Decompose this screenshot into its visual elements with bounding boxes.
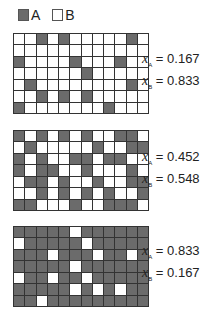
lattice-cell-a	[127, 131, 137, 141]
lattice-cell-b	[25, 91, 35, 101]
lattice-cell-a	[70, 200, 80, 210]
lattice-cell-b	[14, 273, 24, 283]
lattice-cell-a	[59, 131, 69, 141]
lattice-cell-a	[59, 261, 69, 271]
lattice-cell-b	[37, 296, 47, 306]
lattice-cell-a	[82, 261, 92, 271]
lattice-grid	[13, 33, 149, 114]
lattice-cell-b	[70, 34, 80, 44]
lattice-cell-a	[25, 250, 35, 260]
lattice-cell-b	[48, 68, 58, 78]
lattice-cell-a	[37, 227, 47, 237]
lattice-cell-b	[93, 45, 103, 55]
lattice-cell-b	[104, 177, 114, 187]
lattice-cell-a	[70, 273, 80, 283]
lattice-cell-b	[115, 91, 125, 101]
lattice-cell-a	[37, 284, 47, 294]
lattice-cell-b	[93, 57, 103, 67]
lattice-cell-b	[127, 68, 137, 78]
lattice-cell-a	[25, 142, 35, 152]
lattice-cell-a	[37, 91, 47, 101]
lattice-cell-b	[93, 34, 103, 44]
lattice-cell-a	[14, 284, 24, 294]
lattice-cell-b	[59, 80, 69, 90]
legend-item-a: A	[18, 7, 40, 23]
lattice-cell-a	[25, 238, 35, 248]
lattice-cell-a	[93, 177, 103, 187]
lattice-cell-b	[115, 103, 125, 113]
lattice-cell-a	[82, 154, 92, 164]
lattice-cell-a	[14, 250, 24, 260]
lattice-cell-b	[48, 91, 58, 101]
lattice-cell-a	[25, 296, 35, 306]
lattice-cell-a	[14, 103, 24, 113]
lattice-cell-a	[104, 227, 114, 237]
lattice-cell-a	[115, 261, 125, 271]
lattice-cell-b	[127, 250, 137, 260]
lattice-cell-a	[37, 131, 47, 141]
lattice-cell-b	[25, 131, 35, 141]
lattice-cell-a	[59, 238, 69, 248]
lattice-cell-a	[127, 227, 137, 237]
lattice-cell-b	[104, 80, 114, 90]
lattice-cell-b	[70, 80, 80, 90]
lattice-cell-b	[25, 68, 35, 78]
lattice-cell-b	[48, 34, 58, 44]
lattice-cell-a	[14, 131, 24, 141]
legend-label-a: A	[31, 7, 40, 23]
lattice-cell-a	[104, 154, 114, 164]
lattice-cell-a	[25, 177, 35, 187]
lattice-cell-b	[93, 154, 103, 164]
lattice-cell-a	[25, 80, 35, 90]
lattice-cell-a	[37, 188, 47, 198]
lattice-cell-b	[104, 34, 114, 44]
lattice-cell-b	[104, 45, 114, 55]
lattice-cell-b	[70, 261, 80, 271]
lattice-cell-b	[25, 154, 35, 164]
lattice-cell-b	[127, 154, 137, 164]
lattice-cell-a	[82, 91, 92, 101]
lattice-cell-b	[104, 57, 114, 67]
lattice-cell-b	[48, 154, 58, 164]
lattice-cell-a	[59, 177, 69, 187]
lattice-cell-b	[70, 68, 80, 78]
lattice-cell-b	[82, 273, 92, 283]
lattice-cell-b	[70, 91, 80, 101]
lattice-cell-b	[14, 91, 24, 101]
lattice-cell-a	[115, 238, 125, 248]
lattice-cell-b	[93, 131, 103, 141]
lattice-cell-a	[115, 227, 125, 237]
lattice-cell-b	[93, 91, 103, 101]
lattice-cell-b	[25, 188, 35, 198]
lattice-cell-b	[127, 103, 137, 113]
lattice-cell-a	[48, 284, 58, 294]
lattice-cell-b	[14, 45, 24, 55]
lattice-cell-b	[70, 227, 80, 237]
lattice-cell-b	[115, 45, 125, 55]
lattice-cell-a	[127, 142, 137, 152]
lattice-cell-a	[115, 57, 125, 67]
lattice-cell-b	[37, 142, 47, 152]
lattice-cell-a	[127, 261, 137, 271]
mole-fraction-a: xA = 0.452	[142, 149, 200, 171]
lattice-cell-b	[59, 142, 69, 152]
mole-fraction-b: xB = 0.833	[142, 73, 200, 95]
mole-fraction-a: xA = 0.833	[142, 243, 200, 265]
lattice-panel-1	[13, 33, 149, 114]
mole-fraction-a: xA = 0.167	[142, 51, 200, 73]
lattice-cell-a	[127, 165, 137, 175]
lattice-cell-b	[14, 188, 24, 198]
lattice-cell-b	[37, 68, 47, 78]
lattice-cell-a	[48, 238, 58, 248]
lattice-cell-a	[82, 188, 92, 198]
lattice-cell-b	[82, 238, 92, 248]
lattice-cell-b	[82, 57, 92, 67]
lattice-cell-b	[70, 131, 80, 141]
lattice-cell-a	[104, 284, 114, 294]
lattice-cell-a	[25, 227, 35, 237]
lattice-cell-b	[115, 142, 125, 152]
lattice-cell-b	[82, 45, 92, 55]
lattice-cell-a	[93, 261, 103, 271]
lattice-cell-a	[59, 296, 69, 306]
lattice-cell-a	[104, 261, 114, 271]
